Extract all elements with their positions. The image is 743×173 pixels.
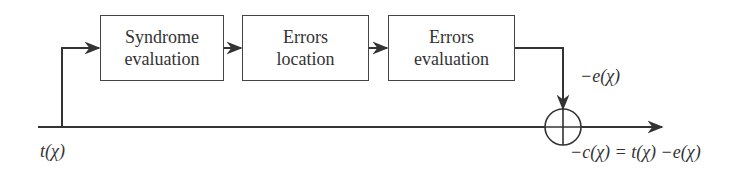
input-label: t(χ) [40,141,65,162]
block-label-line2: evaluation [125,48,200,70]
errors-evaluation-block: Errors evaluation [388,15,515,81]
syndrome-evaluation-block: Syndrome evaluation [100,15,224,81]
block-label-line1: Errors [429,26,474,48]
errors-location-block: Errors location [242,15,369,81]
block-label-line2: evaluation [414,48,489,70]
block-label-line1: Syndrome [125,26,199,48]
error-feedback-line [514,48,563,109]
summing-node-icon [545,109,581,145]
branch-to-syndrome [62,48,99,127]
block-label-line2: location [277,48,335,70]
output-label: −c(χ) = t(χ) −e(χ) [570,142,701,163]
block-label-line1: Errors [283,26,328,48]
error-signal-label: −e(χ) [580,66,620,87]
